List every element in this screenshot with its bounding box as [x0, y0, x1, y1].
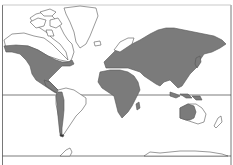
- madagascar-shaded: [136, 102, 140, 110]
- world-map: [0, 0, 233, 165]
- japan-shaded: [195, 56, 201, 68]
- new-zealand: [214, 116, 222, 128]
- iceland: [94, 41, 101, 46]
- north-america-shaded: [4, 45, 74, 94]
- antarctica: [60, 148, 228, 156]
- australia-shaded: [180, 104, 196, 120]
- southeast-asia-islands: [170, 92, 202, 100]
- africa-shaded: [98, 70, 140, 118]
